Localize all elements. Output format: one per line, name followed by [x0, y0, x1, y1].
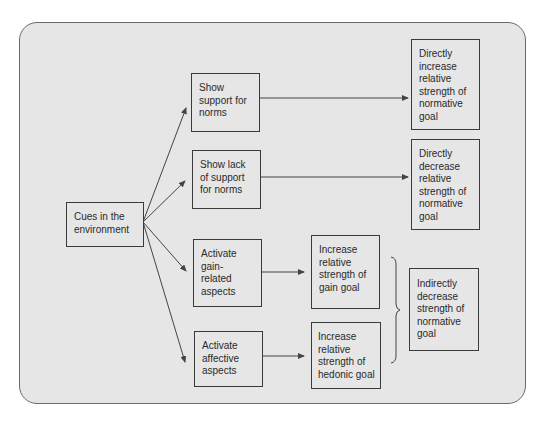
node-directly-decrease-normative-goal: Directly decrease relative strength of n… — [411, 139, 480, 230]
node-show-support-for-norms: Show support for norms — [191, 73, 260, 132]
node-activate-affective-aspects: Activate affective aspects — [194, 331, 263, 387]
node-indirectly-decrease-normative-goal: Indirectly decrease strength of normativ… — [409, 268, 479, 351]
node-show-lack-of-support: Show lack of support for norms — [192, 150, 261, 209]
node-cues-in-environment: Cues in the environment — [66, 202, 144, 247]
node-directly-increase-normative-goal: Directly increase relative strength of n… — [411, 39, 480, 130]
node-increase-gain-goal: Increase relative strength of gain goal — [311, 235, 380, 309]
node-activate-gain-related-aspects: Activate gain- related aspects — [193, 239, 262, 307]
node-increase-hedonic-goal: Increase relative strength of hedonic go… — [311, 322, 381, 389]
